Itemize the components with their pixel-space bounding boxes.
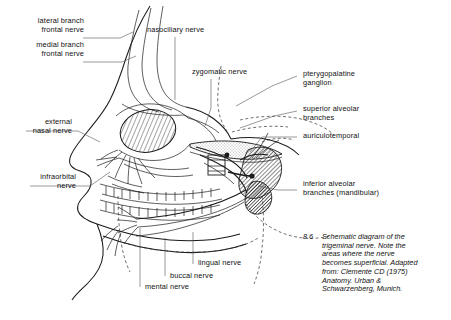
label-lateral-branch-frontal-nerve: lateral branch frontal nerve <box>14 17 84 34</box>
label-zygomatic-nerve: zygomatic nerve <box>192 68 247 77</box>
label-inferior-alveolar-branches: inferior alveolar branches (mandibular) <box>303 180 379 197</box>
leader-superior-alveolar <box>240 111 297 128</box>
label-superior-alveolar-branches: superior alveolar branches <box>303 105 359 122</box>
upper-teeth-row <box>100 184 222 204</box>
label-mental-nerve: mental nerve <box>145 283 189 292</box>
figure-number: 8.6 <box>303 233 313 242</box>
label-external-nasal-nerve: external nasal nerve <box>0 118 72 135</box>
leader-lateral-branch <box>83 32 133 38</box>
label-nasociliary-nerve: nasociliary nerve <box>147 26 204 35</box>
forehead-frontal-nerve-branches <box>122 6 186 115</box>
figure-caption: Schematic diagram of the trigeminal nerv… <box>322 233 442 294</box>
label-auriculotemporal: auriculotemporal <box>303 132 359 141</box>
infraorbital-nerve-branches <box>108 158 193 193</box>
label-pterygopalatine-ganglion: pterygopalatine ganglion <box>303 70 355 87</box>
nasociliary-nerve-path <box>184 66 227 141</box>
label-medial-branch-frontal-nerve: medial branch frontal nerve <box>14 41 84 58</box>
label-lingual-nerve: lingual nerve <box>198 259 241 268</box>
external-nasal-nerve-branches <box>96 150 155 184</box>
leader-zygomatic <box>205 79 211 126</box>
label-buccal-nerve: buccal nerve <box>170 272 213 281</box>
leader-pterygopalatine <box>236 76 297 106</box>
leader-medial-branch <box>83 56 136 62</box>
label-infraorbital-nerve: infraorbital nerve <box>0 173 76 190</box>
